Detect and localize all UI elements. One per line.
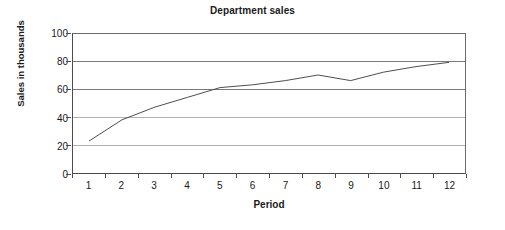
y-tick-label-40: 40 bbox=[6, 112, 68, 123]
x-tick-label-9: 9 bbox=[336, 180, 366, 191]
y-axis-ticks: 020406080100 bbox=[0, 33, 68, 174]
y-tick-label-80: 80 bbox=[6, 56, 68, 67]
y-tick-mark-60 bbox=[66, 89, 71, 90]
x-tick-mark-11 bbox=[433, 174, 434, 178]
x-tick-mark-3 bbox=[171, 174, 172, 178]
x-tick-label-10: 10 bbox=[369, 180, 399, 191]
y-tick-mark-40 bbox=[66, 117, 71, 118]
line-chart: Department sales Sales in thousands 0204… bbox=[0, 0, 505, 230]
x-tick-label-4: 4 bbox=[172, 180, 202, 191]
y-tick-label-20: 20 bbox=[6, 140, 68, 151]
plot-area bbox=[72, 33, 466, 174]
x-tick-mark-1 bbox=[105, 174, 106, 178]
series-sales-polyline bbox=[89, 62, 448, 140]
x-tick-label-11: 11 bbox=[402, 180, 432, 191]
x-tick-mark-6 bbox=[269, 174, 270, 178]
y-tick-label-100: 100 bbox=[6, 28, 68, 39]
x-tick-mark-5 bbox=[236, 174, 237, 178]
x-tick-mark-4 bbox=[203, 174, 204, 178]
x-tick-label-7: 7 bbox=[270, 180, 300, 191]
data-series-line bbox=[73, 33, 465, 173]
x-tick-mark-2 bbox=[138, 174, 139, 178]
x-tick-mark-10 bbox=[400, 174, 401, 178]
chart-title: Department sales bbox=[0, 5, 505, 16]
x-tick-label-2: 2 bbox=[106, 180, 136, 191]
y-tick-mark-0 bbox=[66, 174, 71, 175]
x-axis-title: Period bbox=[72, 199, 466, 210]
x-tick-label-1: 1 bbox=[73, 180, 103, 191]
x-tick-mark-9 bbox=[368, 174, 369, 178]
x-tick-label-6: 6 bbox=[238, 180, 268, 191]
x-tick-label-5: 5 bbox=[205, 180, 235, 191]
x-tick-mark-7 bbox=[302, 174, 303, 178]
x-tick-mark-0 bbox=[72, 174, 73, 178]
y-tick-mark-100 bbox=[66, 33, 71, 34]
x-tick-mark-8 bbox=[335, 174, 336, 178]
x-tick-label-12: 12 bbox=[435, 180, 465, 191]
x-tick-label-3: 3 bbox=[139, 180, 169, 191]
x-axis-ticks: 123456789101112 bbox=[72, 174, 466, 200]
y-tick-mark-80 bbox=[66, 61, 71, 62]
y-tick-mark-20 bbox=[66, 145, 71, 146]
x-tick-mark-12 bbox=[466, 174, 467, 178]
y-tick-label-60: 60 bbox=[6, 84, 68, 95]
y-tick-label-0: 0 bbox=[6, 169, 68, 180]
x-tick-label-8: 8 bbox=[303, 180, 333, 191]
